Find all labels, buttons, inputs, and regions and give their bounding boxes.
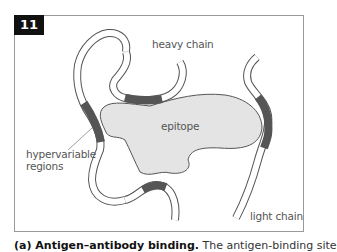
hypervariable-segment [84, 103, 101, 142]
label-epitope: epitope [161, 120, 199, 132]
label-light-chain: light chain [250, 210, 303, 222]
hypervariable-leader-line [68, 128, 92, 150]
figure-number-badge: 11 [14, 15, 44, 35]
label-hypervariable-line1: hypervariable [26, 148, 96, 160]
heavy-chain-inner [113, 52, 127, 98]
hypervariable-segment [125, 98, 162, 100]
label-heavy-chain: heavy chain [152, 38, 214, 50]
epitope-shape [100, 94, 262, 174]
label-hypervariable-line2: regions [26, 160, 63, 172]
caption-rest: The antigen-binding site [199, 239, 337, 252]
caption-bold: (a) Antigen–antibody binding. [14, 239, 199, 252]
chain-bottom-middle [125, 185, 176, 220]
figure-caption: (a) Antigen–antibody binding. The antige… [14, 239, 337, 252]
hypervariable-segment [143, 186, 166, 190]
heavy-chain-top-u [125, 62, 183, 100]
